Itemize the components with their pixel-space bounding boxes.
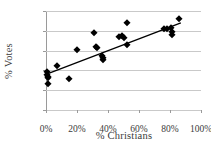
x-tick-mark	[46, 110, 47, 113]
x-tick-label: 100%	[181, 124, 211, 134]
scatter-chart: % Votes % Christians 0%20%40%60%80%100% …	[0, 0, 211, 148]
x-tick-mark	[170, 110, 171, 113]
y-axis-title: % Votes	[2, 6, 16, 116]
trendline	[46, 11, 201, 110]
x-tick-mark	[108, 110, 109, 113]
plot-area: 0%20%40%60%80%100% 0%20%40%60%80%100%	[46, 11, 201, 110]
x-tick-mark	[139, 110, 140, 113]
x-tick-mark	[201, 110, 202, 113]
x-tick-mark	[77, 110, 78, 113]
gridline	[46, 110, 201, 111]
